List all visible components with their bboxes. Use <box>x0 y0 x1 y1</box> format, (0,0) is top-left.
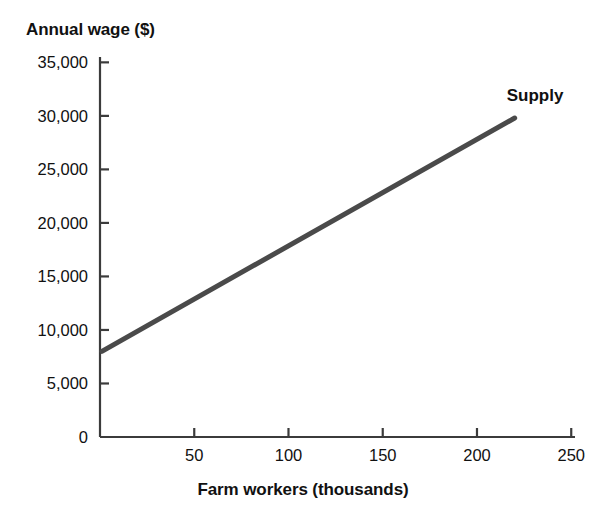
series-line-supply <box>102 118 515 351</box>
y-tick-label: 0 <box>0 428 88 447</box>
y-tick-label: 25,000 <box>0 160 88 179</box>
x-tick-label: 150 <box>369 446 397 465</box>
y-tick-label: 5,000 <box>0 374 88 393</box>
supply-curve-chart: Annual wage ($) 05,00010,00015,00020,000… <box>0 0 606 514</box>
x-axis-title: Farm workers (thousands) <box>0 480 606 500</box>
y-tick-label: 30,000 <box>0 106 88 125</box>
y-tick-label: 15,000 <box>0 267 88 286</box>
x-tick-label: 200 <box>463 446 491 465</box>
axis-lines <box>100 57 575 437</box>
y-tick-label: 10,000 <box>0 320 88 339</box>
x-tick-label: 100 <box>275 446 303 465</box>
y-tick-label: 35,000 <box>0 53 88 72</box>
y-tick-label: 20,000 <box>0 213 88 232</box>
series-label-supply: Supply <box>507 86 564 106</box>
tick-marks <box>100 62 571 437</box>
x-tick-label: 250 <box>557 446 585 465</box>
data-series <box>102 118 515 351</box>
plot-area <box>0 0 606 514</box>
x-tick-label: 50 <box>185 446 203 465</box>
